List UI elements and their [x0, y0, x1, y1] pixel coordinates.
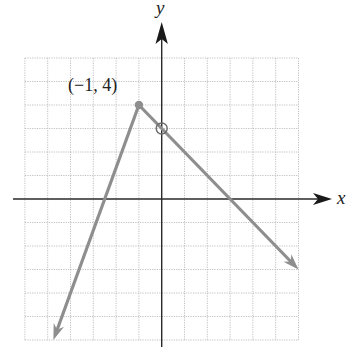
graph: [53, 101, 298, 340]
y-axis-label: y: [154, 0, 165, 18]
axes: x y: [13, 0, 346, 347]
x-axis-label: x: [336, 187, 346, 208]
vertex-label: (−1, 4): [68, 75, 117, 96]
coordinate-plane: x y (−1, 4): [0, 0, 352, 348]
closed-point-marker: [135, 101, 143, 109]
left-branch-line: [56, 105, 139, 332]
